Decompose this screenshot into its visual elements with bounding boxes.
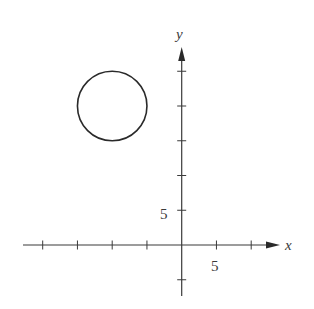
- x-axis-arrow: [266, 242, 280, 249]
- shapes: [77, 71, 147, 141]
- y-tick-label-5: 5: [160, 206, 168, 222]
- y-axis-arrow: [178, 47, 185, 61]
- x-axis-label: x: [284, 237, 292, 253]
- axes: [23, 47, 280, 296]
- circle-curve: [77, 71, 147, 141]
- y-axis-label: y: [174, 26, 183, 42]
- x-tick-label-5: 5: [211, 258, 219, 274]
- chart: x y 5 5: [0, 0, 314, 309]
